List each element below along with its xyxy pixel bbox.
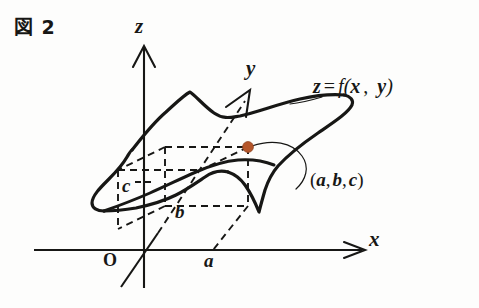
equation-operator: =: [321, 75, 338, 97]
equation-arg-y: y: [377, 75, 386, 97]
point-comma-1: ,: [326, 169, 333, 190]
x-axis-label: x: [369, 229, 380, 250]
origin-label: O: [103, 251, 117, 269]
surface-outline: [92, 92, 353, 212]
box-drop-to-x-axis: [213, 206, 248, 250]
z-intercept-label-c: c: [122, 176, 130, 195]
x-intercept-label-a: a: [204, 251, 214, 270]
figure-container: 図 2 z y x O a b c z=f(x,y) (a,b,c): [0, 0, 479, 308]
y-axis-label: y: [246, 58, 255, 79]
x-axis: [34, 242, 365, 258]
figure-caption: 図 2: [14, 18, 56, 37]
point-close-paren: ): [357, 169, 363, 190]
surface-top-ridge: [132, 92, 344, 150]
marked-point-dot: [243, 142, 254, 153]
point-coordinates-label: (a,b,c): [310, 170, 364, 189]
equation-comma: ,: [360, 75, 371, 97]
point-component-a: a: [316, 169, 326, 190]
point-comma-2: ,: [342, 169, 349, 190]
equation-lhs: z: [313, 75, 321, 97]
surface-equation-label: z=f(x,y): [313, 76, 393, 96]
y-intercept-label-b: b: [175, 202, 185, 221]
equation-arg-x: x: [350, 75, 360, 97]
equation-close-paren: ): [386, 75, 393, 97]
point-component-c: c: [349, 169, 357, 190]
z-axis-label: z: [135, 16, 143, 37]
point-component-b: b: [333, 169, 343, 190]
diagram-canvas: [0, 0, 479, 308]
